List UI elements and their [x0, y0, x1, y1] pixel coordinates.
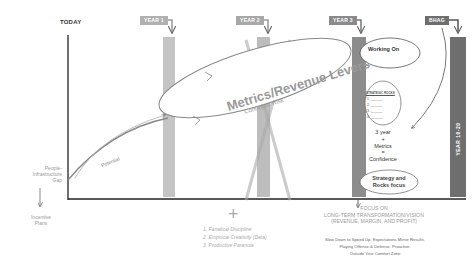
confidence-formula: 3 year + Metrics = Confidence — [358, 129, 408, 163]
people-infrastructure-gap-label: People- Infrastructure Gap — [2, 165, 62, 183]
strategy-rocks-focus: Strategy and Rocks focus — [358, 175, 420, 189]
year2-tag: YEAR 2 — [236, 16, 264, 25]
plus-icon: + — [228, 205, 239, 223]
principles-list: 1. Fanatical Discipline 2. Empirical Cre… — [203, 225, 267, 249]
rocks-list: 1. ______ 2. ______ 3. ______ 4. ______ — [367, 96, 383, 120]
bhag-year-label: YEAR 10-20 — [451, 100, 465, 180]
today-label: TODAY — [60, 19, 81, 25]
incentive-plans-label: Incentive Plans — [18, 214, 64, 226]
year1-bar — [163, 37, 175, 197]
bhag-tag: BHAG — [425, 16, 449, 25]
year3-tag: YEAR 3 — [329, 16, 357, 25]
focus-subtext: Slow Down to Speed Up. Expectations Mirr… — [290, 236, 460, 257]
year1-tag: YEAR 1 — [140, 16, 168, 25]
working-on-label: Working On — [368, 46, 399, 52]
potential-label: Potential — [100, 155, 120, 168]
strategic-rocks-title: STRATEGIC ROCKS — [366, 91, 395, 95]
focus-heading: FOCUS ON LONG-TERM TRANSFORMATION/VISION… — [284, 205, 464, 225]
